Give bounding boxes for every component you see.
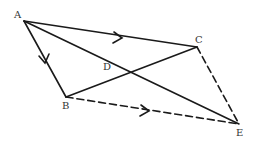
- label-A: A: [13, 9, 22, 20]
- label-C: C: [195, 34, 203, 45]
- arrow-icon-BE: [140, 105, 149, 116]
- label-D: D: [103, 61, 111, 72]
- segment-AB: [24, 21, 66, 97]
- label-E: E: [236, 127, 243, 138]
- segment-BE: [66, 97, 239, 124]
- segment-CE: [197, 47, 239, 124]
- segment-BC: [66, 47, 197, 97]
- arrow-icon-AC: [113, 32, 122, 43]
- label-B: B: [62, 100, 69, 111]
- geometry-diagram: A B C D E: [0, 0, 255, 146]
